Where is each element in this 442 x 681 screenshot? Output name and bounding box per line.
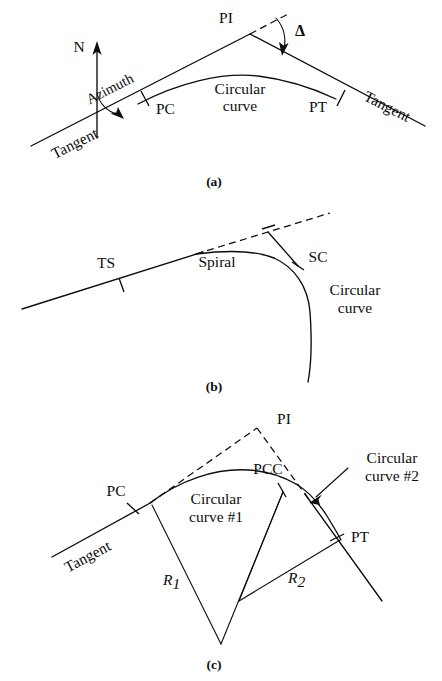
pt-tick-c (330, 534, 344, 541)
offset-tick-b (262, 225, 275, 229)
circular-curve-arc-b (274, 258, 311, 382)
delta-label-a: Δ (295, 22, 305, 39)
north-label: N (73, 38, 84, 55)
panel-caption-a: (a) (206, 174, 222, 189)
circular-curve-label-a-line1: Circular (215, 80, 267, 97)
tangent-label-a-left: Tangent (49, 124, 102, 162)
ts-tick-b (119, 278, 124, 292)
panel-caption-b: (b) (206, 379, 223, 394)
curve-2-leader-line-c (316, 468, 348, 497)
sc-offset-line-b (268, 232, 298, 266)
circular-curve-label-b-line1: Circular (330, 281, 382, 298)
sc-label-b: SC (309, 248, 328, 265)
forward-tangent-line-c (305, 494, 382, 601)
pt-tick-a (337, 90, 345, 106)
circular-curve-label-a-line2: curve (223, 97, 258, 114)
panel-a: N Azimuth PC PI Δ PT Circular curve Tang… (31, 9, 425, 189)
circular-curve-1-label-line2: curve #1 (189, 508, 243, 525)
curve-geometry-figure: N Azimuth PC PI Δ PT Circular curve Tang… (0, 0, 442, 681)
circular-curve-2-label-line1: Circular (367, 449, 419, 466)
pi-label-a: PI (219, 9, 233, 26)
azimuth-label: Azimuth (83, 70, 136, 108)
tangent-label-c: Tangent (61, 537, 113, 576)
panel-c: PC PI PCC PT Circular curve #1 Circular … (52, 410, 419, 672)
pi-label-c: PI (277, 410, 291, 427)
circular-curve-1-label-line1: Circular (191, 490, 243, 507)
pt-label-c: PT (351, 528, 370, 545)
ts-label-b: TS (97, 254, 115, 271)
radius-1-label-c: R1 (162, 571, 180, 592)
radius-2-label-c: R2 (287, 569, 305, 590)
panel-caption-c: (c) (207, 657, 222, 672)
panel-b: TS SC Spiral Circular curve (b) (22, 213, 381, 394)
pcc-label-c: PCC (253, 460, 282, 477)
spiral-label-b: Spiral (198, 253, 235, 270)
pc-label-a: PC (156, 100, 175, 117)
tangent-extension-dashed-a (250, 13, 290, 34)
circular-curve-2-label-line2: curve #2 (365, 467, 419, 484)
azimuth-arrow-head-a (111, 107, 125, 119)
circular-curve-label-b-line2: curve (338, 299, 373, 316)
radius-2-to-pcc-line-c (239, 492, 283, 601)
pc-label-c: PC (107, 482, 126, 499)
tangent-label-a-right: Tangent (361, 87, 414, 125)
sc-tick-b (292, 262, 304, 270)
pt-label-a: PT (309, 98, 328, 115)
